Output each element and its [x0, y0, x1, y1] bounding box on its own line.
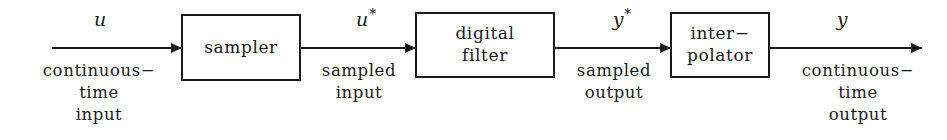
- wire-input: [52, 47, 182, 49]
- caption-continuous-time-input: continuous− time input: [10, 60, 188, 126]
- block-interpolator-label: inter− polator: [687, 23, 753, 67]
- block-sampler-label: sampler: [204, 37, 278, 59]
- signal-label-y: y: [812, 8, 872, 30]
- wire-filter-to-interpolator: [555, 47, 671, 49]
- signal-label-u-star: u*: [336, 8, 396, 30]
- signal-symbol-y: y: [837, 8, 848, 30]
- caption-sampled-output: sampled output: [552, 60, 676, 104]
- block-sampler[interactable]: sampler: [181, 14, 301, 81]
- block-diagram: sampler digital filter inter− polator u …: [0, 0, 947, 140]
- signal-symbol-u: u: [94, 8, 106, 30]
- signal-label-u: u: [70, 8, 130, 30]
- signal-label-y-star: y*: [592, 8, 652, 30]
- block-digital-filter-label: digital filter: [455, 23, 514, 67]
- block-digital-filter[interactable]: digital filter: [415, 12, 555, 78]
- arrowhead-output: [911, 43, 922, 53]
- signal-symbol-y-star: y: [613, 8, 624, 30]
- wire-output: [770, 47, 922, 49]
- caption-sampled-input: sampled input: [300, 60, 418, 104]
- signal-star-u: *: [369, 6, 376, 22]
- signal-symbol-u-star: u: [356, 8, 368, 30]
- caption-continuous-time-output: continuous− time output: [772, 60, 944, 126]
- wire-sampler-to-filter: [301, 47, 416, 49]
- signal-star-y: *: [624, 6, 631, 22]
- block-interpolator[interactable]: inter− polator: [670, 12, 770, 78]
